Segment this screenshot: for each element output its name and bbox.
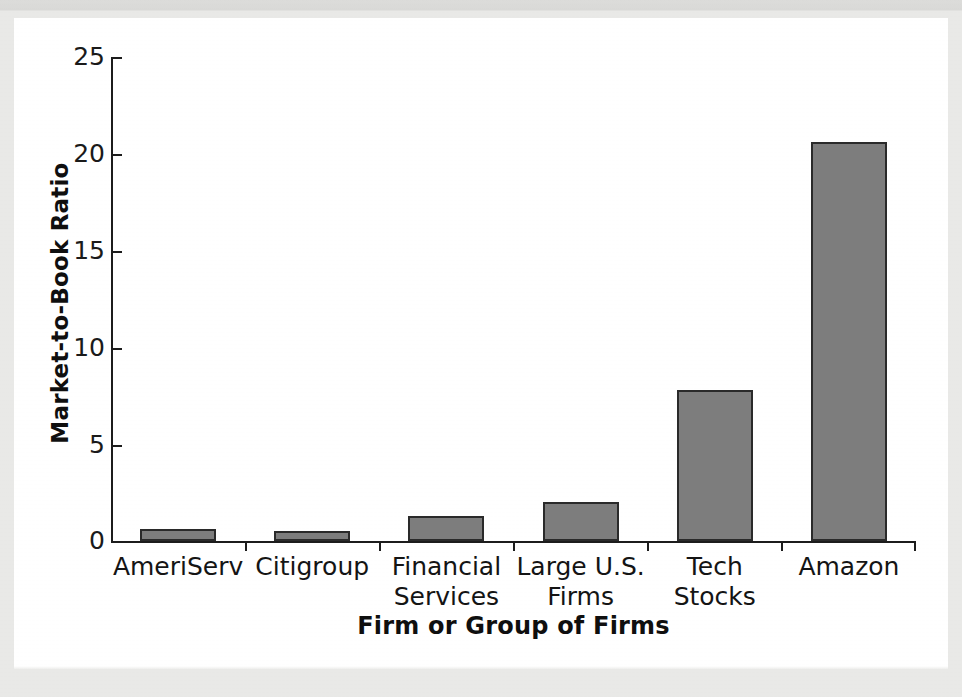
bar-amazon xyxy=(811,142,887,541)
y-tick-label-0: 0 xyxy=(65,528,105,553)
bar-chart: 25 20 15 10 5 0 AmeriServ Citigroup Fina… xyxy=(0,0,962,697)
y-tick-label-25: 25 xyxy=(65,44,105,69)
x-tick-5 xyxy=(781,543,783,551)
x-category-label-citigroup: Citigroup xyxy=(245,552,379,582)
bar-large-us-firms xyxy=(543,502,619,541)
bar-ameriserv xyxy=(140,529,216,541)
x-tick-2 xyxy=(379,543,381,551)
y-tick-20 xyxy=(113,154,122,156)
y-tick-25 xyxy=(113,57,122,59)
bar-tech-stocks xyxy=(677,390,753,541)
x-category-label-tech-stocks: Tech Stocks xyxy=(648,552,782,611)
x-tick-1 xyxy=(245,543,247,551)
y-axis-line xyxy=(111,57,113,543)
y-axis-title: Market-to-Book Ratio xyxy=(47,103,73,503)
y-tick-10 xyxy=(113,348,122,350)
x-tick-4 xyxy=(647,543,649,551)
bar-citigroup xyxy=(274,531,350,541)
y-tick-15 xyxy=(113,251,122,253)
x-category-label-financial-services: Financial Services xyxy=(379,552,513,611)
y-tick-0 xyxy=(113,541,122,543)
x-category-label-ameriserv: AmeriServ xyxy=(111,552,245,582)
x-axis-title: Firm or Group of Firms xyxy=(111,612,916,640)
x-category-label-large-us-firms: Large U.S. Firms xyxy=(514,552,648,611)
x-tick-3 xyxy=(513,543,515,551)
x-axis-end-tick xyxy=(914,541,916,551)
y-tick-5 xyxy=(113,445,122,447)
x-category-label-amazon: Amazon xyxy=(782,552,916,582)
bar-financial-services xyxy=(408,516,484,541)
